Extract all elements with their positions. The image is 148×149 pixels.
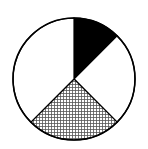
pie-chart [0,0,148,149]
